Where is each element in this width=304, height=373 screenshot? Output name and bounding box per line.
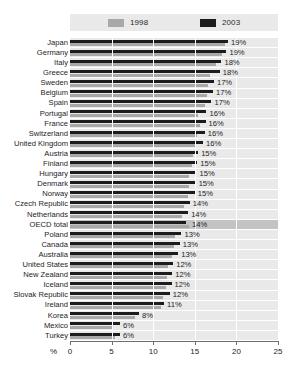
x-axis-tick — [195, 341, 196, 345]
gridline — [112, 38, 113, 341]
value-label: 15% — [201, 150, 216, 158]
category-label: Italy — [0, 59, 68, 67]
bar-1998 — [70, 235, 175, 238]
bar-2003 — [70, 40, 228, 43]
category-label: Slovak Republic — [0, 291, 68, 299]
category-label: Sweden — [0, 79, 68, 87]
bar-2003 — [70, 211, 188, 214]
bar-1998 — [70, 245, 174, 248]
bar-1998 — [70, 74, 210, 77]
bar-1998 — [70, 124, 200, 127]
bar-1998 — [70, 144, 195, 147]
bar-1998 — [70, 53, 222, 56]
value-label: 16% — [209, 110, 224, 118]
value-label: 14% — [191, 211, 206, 219]
bar-2003 — [70, 272, 172, 275]
value-label: 13% — [184, 231, 199, 239]
category-label: Turkey — [0, 332, 68, 340]
value-label: 16% — [208, 130, 223, 138]
legend-label-1998: 1998 — [130, 18, 148, 27]
bar-2003 — [70, 90, 213, 93]
bar-1998 — [70, 134, 197, 137]
bar-2003 — [70, 282, 172, 285]
bar-2003 — [70, 120, 206, 123]
bar-1998 — [70, 104, 205, 107]
legend-swatch-2003 — [200, 19, 216, 27]
bar-1998 — [70, 336, 115, 339]
value-label: 13% — [181, 251, 196, 259]
bar-1998 — [70, 205, 184, 208]
bar-1998 — [70, 94, 207, 97]
bar-1998 — [70, 326, 113, 329]
category-label: OECD total — [0, 221, 68, 229]
category-label: United States — [0, 261, 68, 269]
bar-2003 — [70, 232, 181, 235]
value-label: 15% — [200, 160, 215, 168]
bar-1998 — [70, 154, 193, 157]
x-axis-tick — [236, 341, 237, 345]
x-axis-tick-label: 25 — [266, 347, 290, 356]
category-label: Denmark — [0, 180, 68, 188]
bar-2003 — [70, 80, 214, 83]
category-label: Portugal — [0, 110, 68, 118]
value-label: 17% — [214, 99, 229, 107]
value-label: 14% — [193, 200, 208, 208]
legend-entry-2003: 2003 — [200, 18, 240, 27]
bar-2003 — [70, 141, 203, 144]
bar-1998 — [70, 296, 163, 299]
bar-1998 — [70, 286, 166, 289]
bar-chart: 1998 2003 Japan19%Germany19%Italy18%Gree… — [0, 0, 304, 373]
bar-1998 — [70, 215, 182, 218]
category-label: Japan — [0, 39, 68, 47]
bar-2003 — [70, 252, 178, 255]
category-label: Norway — [0, 190, 68, 198]
gridline — [153, 38, 154, 341]
bar-1998 — [70, 316, 135, 319]
gridline — [236, 38, 237, 341]
bar-1998 — [70, 225, 189, 228]
bar-1998 — [70, 255, 172, 258]
x-axis-tick-label: 5 — [100, 347, 124, 356]
value-label: 18% — [224, 59, 239, 67]
bar-1998 — [70, 84, 208, 87]
value-label: 17% — [217, 79, 232, 87]
value-label: 19% — [231, 39, 246, 47]
x-axis-tick-label: 10 — [141, 347, 165, 356]
value-label: 15% — [198, 190, 213, 198]
value-label: 6% — [123, 332, 134, 340]
bar-1998 — [70, 195, 188, 198]
chart-legend: 1998 2003 — [70, 14, 278, 31]
x-axis-tick — [278, 341, 279, 345]
value-label: 6% — [123, 322, 134, 330]
bar-2003 — [70, 302, 164, 305]
category-label: Netherlands — [0, 211, 68, 219]
value-label: 16% — [206, 140, 221, 148]
category-label: Austria — [0, 150, 68, 158]
bar-2003 — [70, 60, 221, 63]
value-label: 8% — [142, 312, 153, 320]
value-label: 12% — [175, 281, 190, 289]
value-label: 15% — [199, 170, 214, 178]
bar-1998 — [70, 185, 189, 188]
x-axis-tick-label: 15 — [183, 347, 207, 356]
bar-1998 — [70, 276, 167, 279]
bar-2003 — [70, 100, 211, 103]
value-label: 13% — [183, 241, 198, 249]
category-label: France — [0, 120, 68, 128]
bar-1998 — [70, 175, 189, 178]
bar-1998 — [70, 164, 192, 167]
x-axis-tick-label: 0 — [58, 347, 82, 356]
category-label: Finland — [0, 160, 68, 168]
category-label: Poland — [0, 231, 68, 239]
gridline — [278, 38, 279, 341]
bar-2003 — [70, 151, 198, 154]
x-axis-tick — [112, 341, 113, 345]
bar-2003 — [70, 181, 196, 184]
category-label: Switzerland — [0, 130, 68, 138]
value-label: 11% — [167, 301, 182, 309]
bar-2003 — [70, 70, 220, 73]
bar-2003 — [70, 131, 205, 134]
value-label: 19% — [229, 49, 244, 57]
value-label: 12% — [175, 271, 190, 279]
bar-2003 — [70, 50, 226, 53]
